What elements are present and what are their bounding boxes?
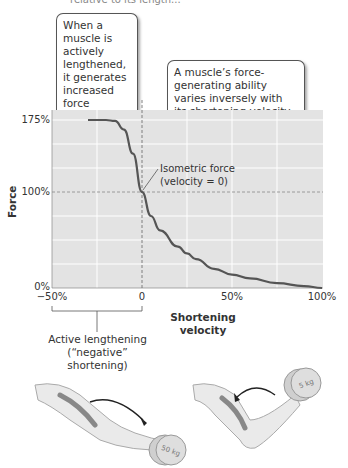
active-lengthening-line2: (“negative” shortening) [40,346,155,372]
arrow-up-icon [237,388,275,397]
active-lengthening-line1: Active lengthening [40,333,155,346]
x-axis-label: Shortening velocity [163,311,243,337]
isometric-label-1: Isometric force [160,163,235,174]
active-lengthening-note: Active lengthening (“negative” shortenin… [40,333,155,372]
isometric-label-2: (velocity = 0) [160,176,228,187]
active-lengthening-bracket [52,306,142,332]
arm-lengthening-illustration: 50 kg [35,384,186,465]
arm-shortening-illustration: 5 kg [193,368,321,448]
force-velocity-chart: Isometric force (velocity = 0) 50 kg 5 k… [0,0,348,468]
x-tick-neg50: −50% [32,291,72,302]
x-tick-100: 100% [302,291,342,302]
y-axis-label: Force [6,186,18,218]
x-tick-50: 50% [212,291,252,302]
y-tick-175: 175% [10,114,50,125]
x-tick-0: 0 [122,291,162,302]
